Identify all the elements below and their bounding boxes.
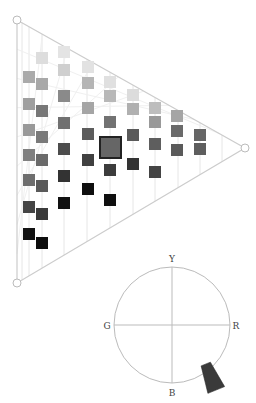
hue-label-yellow: Y	[169, 254, 175, 264]
hue-label-green: G	[103, 321, 110, 331]
hue-label-blue: B	[169, 388, 176, 398]
hue-circle[interactable]	[0, 0, 256, 403]
color-picker: Y G R B	[0, 0, 256, 403]
hue-label-red: R	[233, 321, 240, 331]
hue-pointer-icon[interactable]	[197, 361, 224, 394]
